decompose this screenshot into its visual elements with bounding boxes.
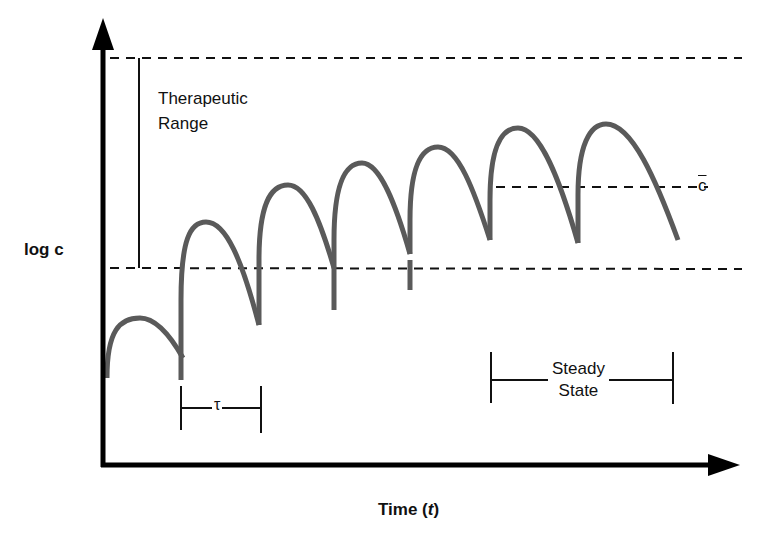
therapeutic-range-label: Therapeutic Range — [158, 86, 248, 136]
pharmacokinetic-diagram — [0, 0, 764, 538]
steady-state-line2: State — [552, 380, 605, 402]
therapeutic-range-line1: Therapeutic — [158, 86, 248, 111]
x-axis-arrow-icon — [708, 454, 740, 476]
x-axis-label-prefix: Time ( — [378, 500, 428, 519]
c-bar-symbol: c — [698, 176, 707, 195]
lower-therapeutic-limit-line — [110, 268, 742, 269]
steady-state-label: Steady State — [548, 358, 609, 402]
y-axis-label: log c — [24, 240, 64, 260]
x-axis-label-suffix: ) — [433, 500, 439, 519]
steady-state-line1: Steady — [552, 358, 605, 380]
therapeutic-range-line2: Range — [158, 111, 248, 136]
concentration-curve — [107, 124, 678, 380]
mean-concentration-label: c — [698, 176, 707, 196]
y-axis-arrow-icon — [92, 18, 114, 50]
x-axis-label: Time (t) — [378, 500, 439, 520]
dosing-interval-label: τ — [212, 396, 222, 414]
